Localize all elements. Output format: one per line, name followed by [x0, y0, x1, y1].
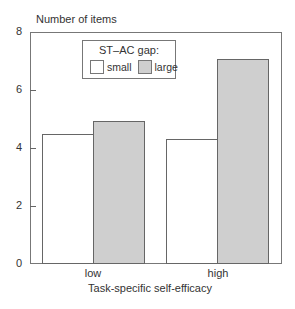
- x-axis-title: Task-specific self-efficacy: [60, 282, 240, 294]
- bar-high-small: [166, 139, 218, 264]
- y-tick-0: 0: [8, 257, 22, 269]
- bar-low-large: [93, 121, 145, 264]
- x-tick-high: high: [198, 267, 238, 279]
- y-tick-mark-4: [30, 148, 36, 149]
- y-tick-6: 6: [8, 83, 22, 95]
- y-tick-4: 4: [8, 141, 22, 153]
- y-axis-title: Number of items: [36, 13, 117, 25]
- legend-swatch-large: [138, 60, 152, 74]
- bar-low-small: [42, 134, 94, 264]
- x-tick-low: low: [73, 267, 113, 279]
- y-tick-2: 2: [8, 199, 22, 211]
- legend-title: ST–AC gap:: [83, 44, 175, 56]
- bar-high-large: [217, 59, 269, 264]
- legend-label-small: small: [107, 61, 132, 73]
- y-tick-mark-2: [30, 206, 36, 207]
- legend: ST–AC gap: small large: [82, 40, 176, 79]
- legend-label-large: large: [155, 61, 178, 73]
- legend-entries: small large: [90, 60, 178, 74]
- y-tick-mark-6: [30, 90, 36, 91]
- legend-swatch-small: [90, 60, 104, 74]
- y-tick-8: 8: [8, 25, 22, 37]
